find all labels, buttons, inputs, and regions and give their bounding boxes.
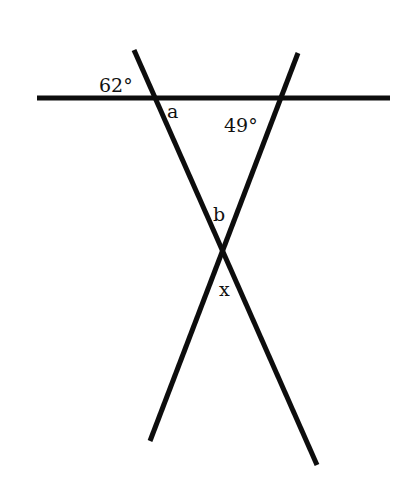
label-angle-a: a [167, 100, 178, 122]
label-49-degrees: 49° [224, 114, 258, 136]
label-62-degrees: 62° [99, 74, 133, 96]
transversal-left-to-bottom-right [134, 50, 317, 465]
label-angle-x: x [219, 278, 230, 300]
angle-diagram: 62° a 49° b x [0, 0, 408, 492]
label-angle-b: b [213, 203, 225, 225]
